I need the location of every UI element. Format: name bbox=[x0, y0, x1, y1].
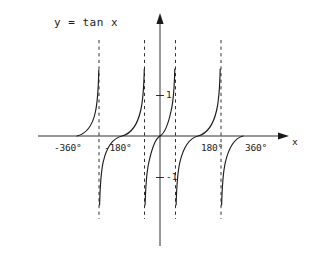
x-tick-label-plus-180: 180° bbox=[201, 143, 223, 153]
y-tick-label-negative-one: -1 bbox=[166, 172, 177, 182]
tan-branch-right-inner bbox=[176, 69, 220, 205]
tan-branch-right-outer bbox=[222, 136, 243, 205]
x-tick-label-minus-360: -360° bbox=[54, 143, 82, 153]
chart-title: y = tan x bbox=[54, 17, 118, 28]
x-axis-arrowhead bbox=[278, 132, 289, 139]
x-axis-label: x bbox=[292, 137, 298, 147]
x-tick-label-plus-360: 360° bbox=[245, 143, 267, 153]
y-tick-label-one: 1 bbox=[166, 90, 172, 100]
tan-branch-left-outer bbox=[77, 70, 99, 136]
tan-function-graph: y = tan x -360° -180° 180° 360° 1 -1 x bbox=[0, 0, 309, 262]
x-tick-label-minus-180: -180° bbox=[104, 143, 132, 153]
y-axis-arrowhead bbox=[156, 13, 163, 24]
tan-branch-left-inner bbox=[100, 69, 145, 205]
plot-canvas bbox=[0, 0, 309, 262]
